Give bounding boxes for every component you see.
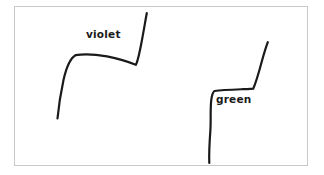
figure-border xyxy=(15,7,308,166)
figure-canvas: violet green xyxy=(0,0,324,175)
curve-plot xyxy=(0,0,324,175)
curve-label-violet: violet xyxy=(86,29,121,40)
curve-label-green: green xyxy=(216,94,251,105)
